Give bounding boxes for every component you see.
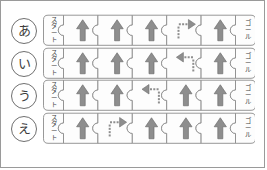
svg-text:ト: ト <box>51 36 57 44</box>
arrow-piece[interactable] <box>58 15 98 45</box>
row-label-3: え <box>11 116 37 142</box>
arrow-piece[interactable] <box>127 113 167 143</box>
svg-text:ル: ル <box>245 33 252 41</box>
arrow-piece[interactable] <box>196 113 236 143</box>
goal-piece-label: ゴール <box>245 83 252 106</box>
start-piece-label: スタート <box>51 113 57 141</box>
svg-text:ル: ル <box>245 66 252 74</box>
start-piece-label: スタート <box>51 16 57 44</box>
arrow-piece[interactable] <box>127 80 167 110</box>
arrow-piece[interactable] <box>93 80 133 110</box>
svg-text:ト: ト <box>51 68 57 76</box>
arrow-piece[interactable] <box>127 15 167 45</box>
row-label-1: い <box>11 51 37 77</box>
row-pieces: スタートゴール <box>43 47 255 80</box>
arrow-piece[interactable] <box>196 15 236 45</box>
arrow-piece[interactable] <box>196 48 236 78</box>
puzzle-grid: あスタートゴールいスタートゴールうスタートゴールえスタートゴール <box>43 14 255 157</box>
arrow-piece[interactable] <box>58 48 98 78</box>
puzzle-row: いスタートゴール <box>43 47 255 80</box>
arrow-piece[interactable] <box>127 48 167 78</box>
puzzle-row: えスタートゴール <box>43 112 255 145</box>
row-label-2: う <box>11 83 37 109</box>
arrow-piece[interactable] <box>93 15 133 45</box>
puzzle-row: あスタートゴール <box>43 14 255 47</box>
puzzle-row: うスタートゴール <box>43 79 255 112</box>
row-pieces: スタートゴール <box>43 79 255 112</box>
start-piece-label: スタート <box>51 81 57 109</box>
arrow-piece[interactable] <box>196 80 236 110</box>
arrow-piece[interactable] <box>162 113 202 143</box>
svg-text:ト: ト <box>51 133 57 141</box>
arrow-piece[interactable] <box>93 48 133 78</box>
arrow-piece[interactable] <box>162 15 202 45</box>
arrow-piece[interactable] <box>162 48 202 78</box>
svg-text:ト: ト <box>51 101 57 109</box>
row-pieces: スタートゴール <box>43 14 255 47</box>
goal-piece-label: ゴール <box>245 18 252 41</box>
svg-text:ル: ル <box>245 131 252 139</box>
arrow-piece[interactable] <box>58 113 98 143</box>
arrow-piece[interactable] <box>58 80 98 110</box>
arrow-piece[interactable] <box>162 80 202 110</box>
start-piece-label: スタート <box>51 48 57 76</box>
row-pieces: スタートゴール <box>43 112 255 145</box>
svg-text:ル: ル <box>245 98 252 106</box>
row-label-0: あ <box>11 18 37 44</box>
arrow-piece[interactable] <box>93 113 133 143</box>
goal-piece-label: ゴール <box>245 115 252 138</box>
goal-piece-label: ゴール <box>245 50 252 73</box>
figure-border: あスタートゴールいスタートゴールうスタートゴールえスタートゴール <box>0 0 265 168</box>
